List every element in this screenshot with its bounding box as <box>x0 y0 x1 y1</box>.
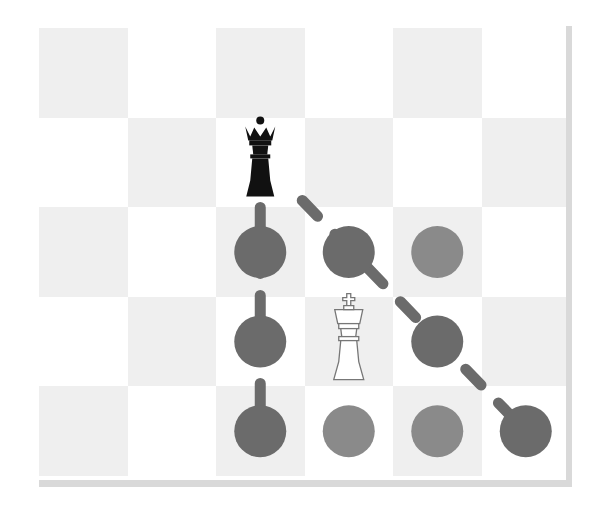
attacked-square-marker <box>234 405 286 457</box>
attacked-square-marker <box>323 226 375 278</box>
safe-square-marker <box>411 226 463 278</box>
diagram-overlay <box>0 0 601 507</box>
black-queen-icon <box>245 116 275 196</box>
safe-square-marker <box>411 405 463 457</box>
attacked-square-marker <box>234 316 286 368</box>
white-king-icon <box>334 294 364 380</box>
attacked-square-marker <box>500 405 552 457</box>
safe-square-marker <box>323 405 375 457</box>
attacked-square-marker <box>411 316 463 368</box>
attacked-square-marker <box>234 226 286 278</box>
